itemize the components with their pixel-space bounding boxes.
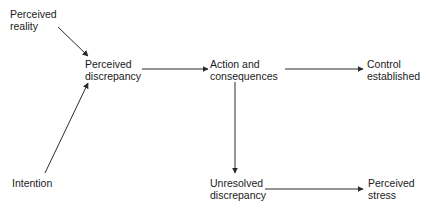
arrow-intention-to-discrepancy (45, 83, 88, 173)
node-label-line1: Perceived (10, 8, 57, 20)
node-label-line1: Unresolved (210, 177, 266, 189)
node-label-line2: reality (10, 20, 57, 32)
node-label-line1: Perceived (85, 58, 141, 70)
node-label-line1: Action and (210, 58, 278, 70)
node-action-and-consequences: Action and consequences (210, 58, 278, 82)
node-label-line2: discrepancy (85, 70, 141, 82)
node-label-line2: consequences (210, 70, 278, 82)
node-perceived-stress: Perceived stress (368, 177, 415, 201)
node-perceived-reality: Perceived reality (10, 8, 57, 32)
node-label-line2: discrepancy (210, 189, 266, 201)
node-label-line1: Intention (12, 177, 52, 189)
node-label-line2: stress (368, 189, 415, 201)
node-intention: Intention (12, 177, 52, 189)
node-unresolved-discrepancy: Unresolved discrepancy (210, 177, 266, 201)
node-control-established: Control established (367, 58, 420, 82)
node-perceived-discrepancy: Perceived discrepancy (85, 58, 141, 82)
node-label-line2: established (367, 70, 420, 82)
node-label-line1: Control (367, 58, 420, 70)
node-label-line1: Perceived (368, 177, 415, 189)
arrow-reality-to-discrepancy (58, 27, 88, 56)
